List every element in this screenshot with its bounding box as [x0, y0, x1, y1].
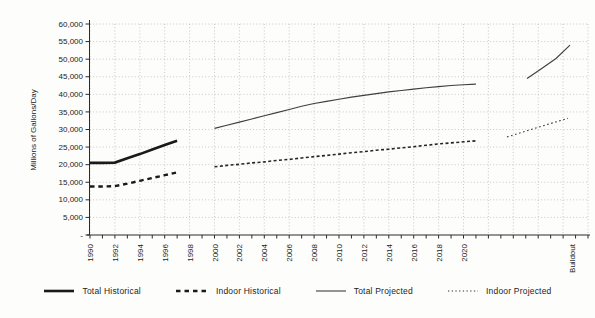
legend-item-indoor-historical: Indoor Historical [175, 286, 281, 296]
x-tick-label: 2012 [360, 243, 369, 261]
x-tick-label: 2018 [435, 243, 444, 261]
x-tick-label: 2010 [335, 243, 344, 261]
y-tick-label: 15,000 [59, 178, 84, 187]
water-demand-chart: -5,00010,00015,00020,00025,00030,00035,0… [0, 0, 595, 318]
y-tick-label: 40,000 [59, 90, 84, 99]
y-tick-label: 5,000 [63, 213, 84, 222]
legend-label: Indoor Historical [216, 286, 281, 296]
series-total-historical [90, 141, 177, 163]
legend-item-total-historical: Total Historical [43, 286, 140, 296]
chart-canvas: -5,00010,00015,00020,00025,00030,00035,0… [0, 0, 595, 318]
series-indoor-historical [90, 172, 177, 186]
x-tick-label: 2000 [211, 243, 220, 261]
x-tick-label: 2016 [410, 243, 419, 261]
indoor-projected-line-sample [447, 287, 479, 295]
y-tick-label: 30,000 [59, 125, 84, 134]
legend-label: Total Historical [82, 286, 140, 296]
x-tick-label: 1990 [86, 243, 95, 261]
y-tick-label: 55,000 [59, 37, 84, 46]
legend-item-indoor-projected: Indoor Projected [447, 286, 552, 296]
series-total-projected [215, 84, 476, 128]
chart-legend: Total Historical Indoor Historical Total… [0, 286, 595, 296]
series-total-projected-buildout [527, 45, 570, 78]
gridlines [90, 24, 588, 235]
y-tick-label: 20,000 [59, 160, 84, 169]
series-indoor-projected-buildout [507, 118, 568, 137]
y-tick-label: - [80, 231, 83, 240]
y-tick-label: 50,000 [59, 55, 84, 64]
legend-label: Indoor Projected [486, 286, 552, 296]
legend-label: Total Projected [354, 286, 413, 296]
legend-item-total-projected: Total Projected [315, 286, 413, 296]
x-tick-label: 2004 [260, 243, 269, 261]
series-indoor-projected [215, 141, 476, 167]
y-axis-title: Millions of Gallons/Day [29, 89, 38, 170]
total-projected-line-sample [315, 287, 347, 295]
x-tick-label: 2008 [310, 243, 319, 261]
x-tick-label: 1996 [161, 243, 170, 261]
y-tick-label: 35,000 [59, 108, 84, 117]
x-tick-label: 1994 [136, 243, 145, 261]
indoor-historical-line-sample [175, 287, 209, 295]
y-tick-label: 45,000 [59, 72, 84, 81]
y-tick-label: 60,000 [59, 20, 84, 29]
x-tick-label: 2006 [285, 243, 294, 261]
y-tick-label: 10,000 [59, 195, 84, 204]
x-tick-label: 2020 [460, 243, 469, 261]
y-tick-label: 25,000 [59, 143, 84, 152]
x-tick-label: 2002 [235, 243, 244, 261]
x-tick-label: 1992 [111, 243, 120, 261]
x-tick-label: 1998 [186, 243, 195, 261]
data-series [90, 45, 570, 186]
x-tick-label-buildout: Buildout [568, 243, 577, 273]
x-tick-label: 2014 [385, 243, 394, 261]
total-historical-line-sample [43, 287, 75, 295]
